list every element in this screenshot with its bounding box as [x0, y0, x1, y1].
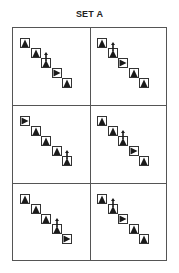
step-box: [20, 116, 30, 126]
step-box: [118, 214, 128, 224]
figure-grid: [12, 27, 167, 261]
cell-1: [13, 28, 90, 106]
step-box: [62, 78, 72, 88]
step-box: [108, 204, 118, 214]
step-box: [41, 136, 51, 146]
step-box: [118, 58, 128, 68]
step-box: [62, 234, 72, 244]
step-box: [31, 48, 41, 58]
step-box: [108, 126, 118, 136]
step-box: [139, 234, 149, 244]
step-box: [97, 116, 107, 126]
step-box: [129, 146, 139, 156]
cell-3: [13, 106, 90, 184]
step-box: [20, 38, 30, 48]
step-box: [139, 78, 149, 88]
step-box: [31, 204, 41, 214]
cell-6: [90, 184, 167, 262]
step-box: [118, 136, 128, 146]
step-box: [31, 126, 41, 136]
step-box: [41, 214, 51, 224]
step-box: [97, 194, 107, 204]
step-box: [20, 194, 30, 204]
cell-5: [13, 184, 90, 262]
step-box: [52, 68, 62, 78]
step-box: [52, 224, 62, 234]
step-box: [129, 68, 139, 78]
step-box: [52, 146, 62, 156]
set-title: SET A: [0, 9, 179, 19]
step-box: [97, 38, 107, 48]
step-box: [41, 58, 51, 68]
step-box: [62, 156, 72, 166]
cell-4: [90, 106, 167, 184]
cell-2: [90, 28, 167, 106]
step-box: [108, 48, 118, 58]
step-box: [129, 224, 139, 234]
step-box: [139, 156, 149, 166]
